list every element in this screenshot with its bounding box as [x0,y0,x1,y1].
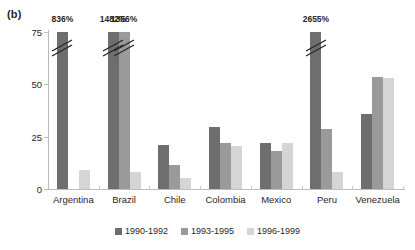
bar-group-bars [361,32,394,189]
x-tick-label-colombia: Colombia [205,194,245,205]
x-tick-label-brazil: Brazil [112,194,136,205]
bar-peru-1993-1995 [321,129,332,189]
bar-venezuela-1996-1999 [383,78,394,189]
x-tick-label-chile: Chile [164,194,186,205]
bar-colombia-1993-1995 [220,143,231,189]
bar-brazil-1990-1992 [108,32,119,189]
value-label-argentina-1990-1992: 836% [51,14,73,24]
bar-mexico-1996-1999 [282,143,293,189]
bar-colombia-1990-1992 [209,127,220,189]
x-tick-label-venezuela: Venezuela [355,194,399,205]
plot-area [48,32,403,189]
legend-item-1993-1995[interactable]: 1993-1995 [181,226,234,236]
legend-label: 1996-1999 [257,226,300,236]
bar-group-mexico [260,32,293,189]
bar-group-bars [108,32,141,189]
value-label-brazil-1993-1995: 1356% [111,14,137,24]
y-tick-label-0: 0 [12,184,42,195]
bar-venezuela-1990-1992 [361,114,372,189]
bar-argentina-1990-1992 [57,32,68,189]
bar-mexico-1993-1995 [271,151,282,189]
y-tick-label-25: 25 [12,131,42,142]
legend-item-1996-1999[interactable]: 1996-1999 [247,226,300,236]
bar-mexico-1990-1992 [260,143,271,189]
bar-group-peru [310,32,343,189]
bar-group-venezuela [361,32,394,189]
x-separator [403,186,404,190]
panel-label: (b) [7,8,22,20]
legend-item-1990-1992[interactable]: 1990-1992 [115,226,168,236]
bar-argentina-1996-1999 [79,170,90,189]
x-tick-label-peru: Peru [317,194,337,205]
bar-group-brazil [108,32,141,189]
chart-legend: 1990-19921993-19951996-1999 [0,226,415,236]
legend-swatch-icon [115,228,122,235]
bar-group-bars [209,32,242,189]
bar-brazil-1996-1999 [130,172,141,189]
bar-group-bars [310,32,343,189]
x-tick-label-mexico: Mexico [261,194,291,205]
bar-group-bars [260,32,293,189]
y-tick-label-75: 75 [12,27,42,38]
bar-group-chile [158,32,191,189]
bar-brazil-1993-1995 [119,32,130,189]
bar-group-argentina [57,32,90,189]
bar-chile-1996-1999 [180,178,191,190]
bar-chile-1993-1995 [169,165,180,189]
y-tick-mark-0 [44,189,48,190]
bar-peru-1996-1999 [332,172,343,189]
legend-swatch-icon [181,228,188,235]
bar-chile-1990-1992 [158,145,169,189]
x-tick-label-argentina: Argentina [53,194,94,205]
bar-group-bars [158,32,191,189]
y-tick-label-50: 50 [12,79,42,90]
bar-group-bars [57,32,90,189]
bar-chart-panel-b: (b) 0255075 ArgentinaBrazilChileColombia… [0,0,415,250]
legend-swatch-icon [247,228,254,235]
legend-label: 1993-1995 [191,226,234,236]
bar-peru-1990-1992 [310,32,321,189]
bar-venezuela-1993-1995 [372,77,383,189]
legend-label: 1990-1992 [125,226,168,236]
bar-colombia-1996-1999 [231,146,242,189]
value-label-peru-1990-1992: 2655% [303,14,329,24]
bar-group-colombia [209,32,242,189]
